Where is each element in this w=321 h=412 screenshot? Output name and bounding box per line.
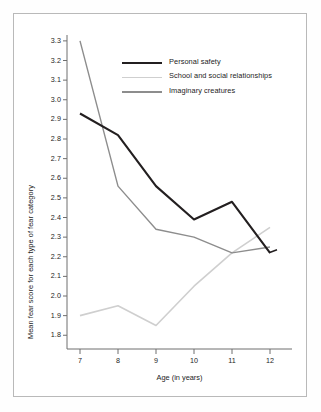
legend-swatch xyxy=(122,77,162,79)
y-axis-tick-label: 2.7 xyxy=(31,154,61,163)
x-axis-tick-label: 11 xyxy=(222,356,242,365)
y-axis-tick-label: 2.2 xyxy=(31,252,61,261)
legend-label: Imaginary creatures xyxy=(169,86,235,95)
y-axis-tick-label: 3.0 xyxy=(31,95,61,104)
y-axis-tick-label: 2.1 xyxy=(31,271,61,280)
y-axis-tick-label: 1.9 xyxy=(31,311,61,320)
series-line xyxy=(80,227,270,325)
legend-label: School and social relationships xyxy=(169,71,272,80)
x-axis-tick-label: 8 xyxy=(108,356,128,365)
y-axis-tick-label: 2.6 xyxy=(31,173,61,182)
y-axis-tick-label: 2.0 xyxy=(31,291,61,300)
legend-label: Personal safety xyxy=(169,57,221,66)
y-axis-tick-label: 2.3 xyxy=(31,232,61,241)
legend-swatch xyxy=(122,62,162,64)
y-axis-tick-label: 3.2 xyxy=(31,56,61,65)
y-axis-tick-label: 1.8 xyxy=(31,330,61,339)
y-axis-tick-label: 2.4 xyxy=(31,213,61,222)
y-axis-tick-label: 3.3 xyxy=(31,36,61,45)
figure-canvas: 3.33.23.13.02.92.82.72.62.52.42.32.22.12… xyxy=(0,0,321,412)
x-axis-tick-label: 7 xyxy=(70,356,90,365)
x-axis-tick-label: 10 xyxy=(184,356,204,365)
y-axis-title: Mean fear score for each type of fear ca… xyxy=(26,185,35,339)
legend-swatch xyxy=(122,91,162,93)
y-axis-tick-label: 2.5 xyxy=(31,193,61,202)
series-line xyxy=(80,114,270,253)
x-axis-title: Age (in years) xyxy=(67,373,292,382)
x-axis-tick-label: 12 xyxy=(260,356,280,365)
chart-frame: 3.33.23.13.02.92.82.72.62.52.42.32.22.12… xyxy=(13,13,307,397)
x-axis-tick-label: 9 xyxy=(146,356,166,365)
y-axis-tick-label: 3.1 xyxy=(31,75,61,84)
y-axis-tick-label: 2.9 xyxy=(31,114,61,123)
y-axis-tick-label: 2.8 xyxy=(31,134,61,143)
